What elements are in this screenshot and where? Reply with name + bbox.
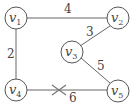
edge-v3-v5 bbox=[81, 58, 110, 83]
weight-v1-v4: 2 bbox=[7, 47, 15, 61]
weight-v3-v5: 5 bbox=[97, 59, 105, 73]
node-v1: v1 bbox=[5, 7, 27, 29]
node-v4: v4 bbox=[5, 79, 27, 101]
node-v2: v2 bbox=[107, 7, 129, 29]
graph-diagram: 4 2 3 5 6 v1 v2 v3 v4 v5 bbox=[0, 0, 136, 109]
weight-v1-v2: 4 bbox=[64, 2, 72, 16]
node-v5: v5 bbox=[107, 80, 129, 102]
weight-v4-v5: 6 bbox=[69, 91, 77, 105]
weight-v2-v3: 3 bbox=[86, 25, 94, 39]
edge-v2-v3 bbox=[80, 26, 110, 46]
node-v3: v3 bbox=[61, 41, 83, 63]
